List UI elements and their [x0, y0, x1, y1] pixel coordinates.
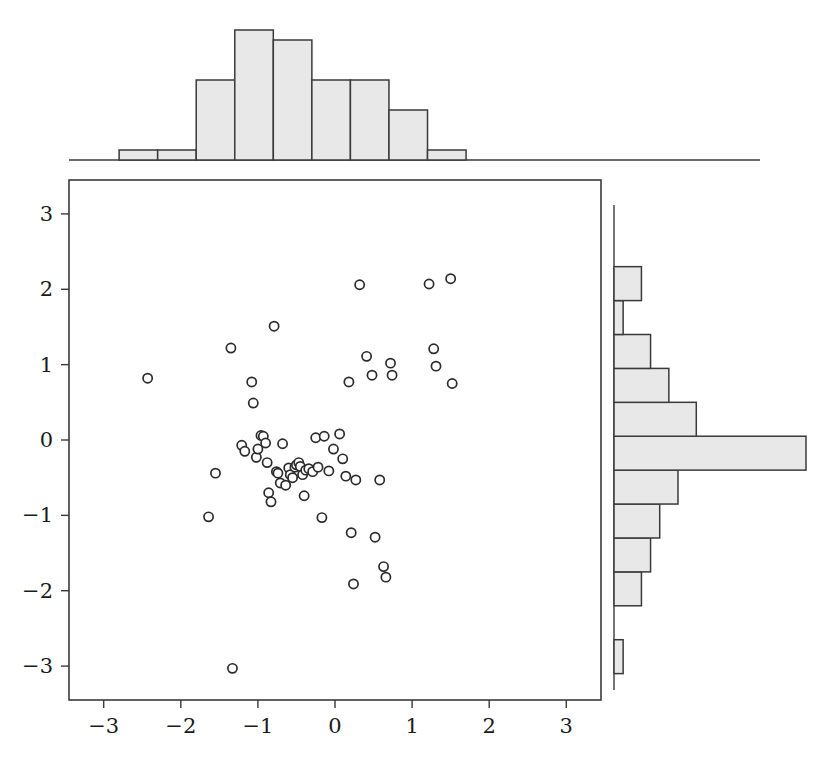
y-tick-label: −3 [22, 654, 53, 678]
x-tick-label: −3 [88, 714, 119, 738]
right-hist-bar [614, 640, 623, 674]
scatter-point [375, 475, 384, 484]
scatter-point [338, 454, 347, 463]
scatter-point [344, 377, 353, 386]
scatter-point [379, 562, 388, 571]
right-hist-bar [614, 368, 669, 402]
scatter-point [317, 513, 326, 522]
right-hist-bar [614, 572, 641, 606]
top-hist-bar [158, 150, 197, 160]
scatter-point [347, 528, 356, 537]
right-hist-bar [614, 504, 660, 538]
top-hist-bar [273, 40, 312, 160]
scatter-frame [69, 180, 601, 700]
scatter-point [431, 362, 440, 371]
scatter-point [355, 280, 364, 289]
scatter-point [247, 377, 256, 386]
scatter-axes-frame [69, 180, 601, 700]
right-hist-bar [614, 334, 651, 368]
top-hist-bar [389, 110, 428, 160]
scatter-point [269, 322, 278, 331]
right-marginal-histogram [614, 205, 806, 690]
scatter-point [211, 469, 220, 478]
scatter-point [249, 398, 258, 407]
scatter-point [424, 279, 433, 288]
scatter-point [288, 473, 297, 482]
scatter-point [143, 374, 152, 383]
scatter-point [320, 432, 329, 441]
scatter-point [263, 458, 272, 467]
scatter-points [143, 274, 457, 673]
y-tick-label: 0 [40, 428, 53, 452]
scatter-point [281, 481, 290, 490]
top-hist-bar [312, 80, 351, 160]
x-tick-label: −2 [165, 714, 196, 738]
x-tick-label: −1 [242, 714, 273, 738]
scatter-point [311, 433, 320, 442]
scatter-point [264, 488, 273, 497]
scatter-point [204, 512, 213, 521]
right-hist-bar [614, 301, 623, 335]
right-hist-bar [614, 470, 678, 504]
scatter-point [381, 573, 390, 582]
axis-ticks [61, 214, 566, 708]
scatter-point [351, 475, 360, 484]
scatter-point [386, 359, 395, 368]
y-tick-label: −1 [22, 503, 53, 527]
top-hist-bar [235, 30, 274, 160]
y-tick-label: 1 [40, 353, 53, 377]
scatter-point [261, 438, 270, 447]
scatter-point [313, 463, 322, 472]
scatter-point [300, 491, 309, 500]
right-hist-bar [614, 538, 651, 572]
x-tick-label: 1 [405, 714, 418, 738]
right-hist-bar [614, 436, 806, 470]
y-tick-label: 2 [40, 277, 53, 301]
scatter-point [226, 343, 235, 352]
x-tick-label: 3 [560, 714, 573, 738]
scatter-point [329, 444, 338, 453]
scatter-point [273, 469, 282, 478]
scatter-point [341, 472, 350, 481]
top-hist-bar [196, 80, 235, 160]
top-marginal-histogram [69, 30, 760, 160]
x-tick-label: 2 [483, 714, 496, 738]
scatter-point [240, 447, 249, 456]
top-hist-bar [119, 150, 158, 160]
scatter-point [266, 497, 275, 506]
right-hist-bar [614, 402, 696, 436]
scatter-point [228, 664, 237, 673]
x-tick-label: 0 [328, 714, 341, 738]
joint-scatter-histogram-figure: −3−2−10123−3−2−10123 [0, 0, 830, 770]
scatter-point [370, 533, 379, 542]
scatter-point [324, 466, 333, 475]
scatter-point [446, 274, 455, 283]
y-tick-label: 3 [40, 202, 53, 226]
y-tick-label: −2 [22, 579, 53, 603]
scatter-point [429, 344, 438, 353]
plot-canvas: −3−2−10123−3−2−10123 [0, 0, 830, 770]
scatter-point [335, 429, 344, 438]
scatter-point [448, 379, 457, 388]
scatter-point [387, 371, 396, 380]
scatter-point [278, 439, 287, 448]
right-hist-bar [614, 267, 641, 301]
top-hist-bar [428, 150, 467, 160]
scatter-point [367, 371, 376, 380]
scatter-point [349, 579, 358, 588]
top-hist-bar [350, 80, 389, 160]
scatter-point [362, 352, 371, 361]
